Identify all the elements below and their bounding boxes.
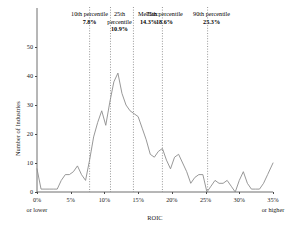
percentile-gridlines — [90, 7, 208, 192]
axis-lines — [37, 8, 273, 192]
roic-distribution-chart: Number of Industries ROIC 01020304050 0%… — [0, 0, 307, 228]
plot-canvas — [0, 0, 307, 228]
distribution-line — [37, 73, 273, 192]
